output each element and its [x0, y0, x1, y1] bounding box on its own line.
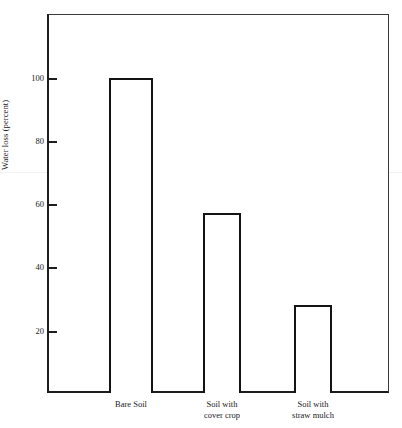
- y-axis-title: Water loss (percent): [0, 50, 16, 170]
- y-tick-label-40-wrap: 40: [0, 263, 44, 272]
- y-tick-label-20-wrap: 20: [0, 327, 44, 336]
- y-tick-60: [48, 204, 57, 206]
- y-tick-label-80-wrap: 80: [0, 137, 44, 146]
- y-tick-100: [48, 78, 57, 80]
- y-tick-20: [48, 331, 57, 333]
- y-tick-label-40: 40: [0, 263, 44, 272]
- y-tick-label-100: 100: [0, 74, 44, 83]
- y-tick-40: [48, 267, 57, 269]
- x-label-bare-soil: Bare Soil: [91, 399, 171, 410]
- y-tick-label-80: 80: [0, 137, 44, 146]
- bar-soil-with-cover-crop: [203, 213, 241, 393]
- bar-soil-with-straw-mulch: [294, 305, 332, 393]
- y-tick-label-60-wrap: 60: [0, 200, 44, 209]
- y-tick-label-20: 20: [0, 327, 44, 336]
- bar-bare-soil: [109, 78, 153, 393]
- x-label-soil-with-cover-crop: Soil with cover crop: [182, 399, 262, 421]
- x-label-soil-with-straw-mulch: Soil with straw mulch: [273, 399, 353, 421]
- y-tick-label-60: 60: [0, 200, 44, 209]
- y-tick-label-100-wrap: 100: [0, 74, 44, 83]
- bar-chart: Water loss (percent) 100 80 60 40 20 Bar…: [0, 0, 402, 428]
- y-tick-80: [48, 141, 57, 143]
